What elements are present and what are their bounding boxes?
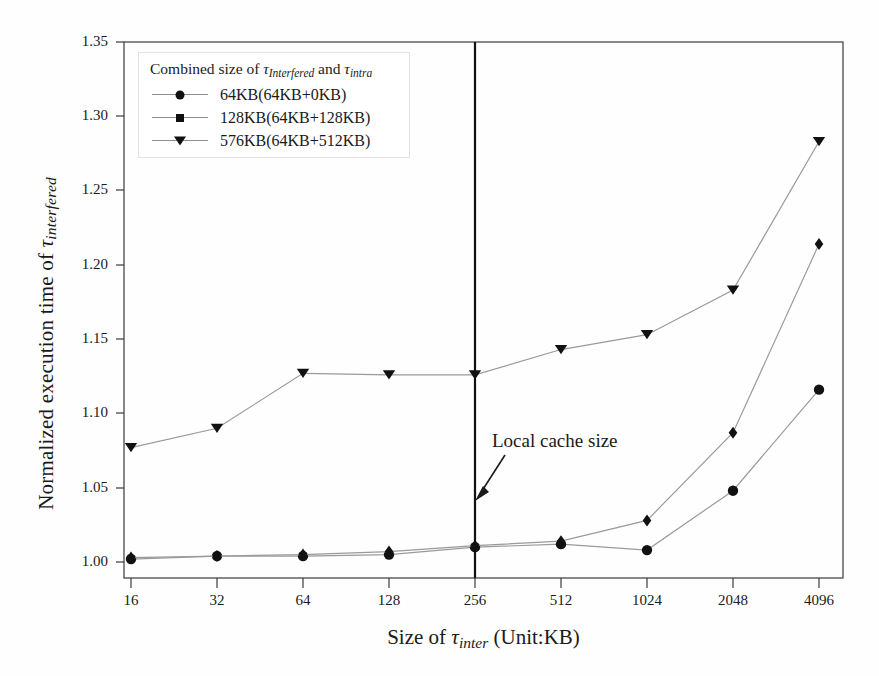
data-point-triangle	[813, 137, 825, 146]
legend-title: Combined size of τInterfered and τintra	[148, 60, 400, 79]
legend-title-conjunction: and	[314, 60, 344, 77]
x-axis-title-suffix: (Unit:KB)	[488, 625, 580, 649]
y-tick-label-1.35: 1.35	[60, 33, 108, 50]
data-point-triangle	[211, 424, 223, 433]
x-tick-label-128: 128	[359, 592, 419, 609]
data-point-diamond	[643, 514, 652, 526]
x-tick-label-1024: 1024	[617, 592, 677, 609]
line-chart-plot	[0, 0, 879, 676]
triangle-down-marker-icon	[148, 134, 212, 148]
data-point-triangle	[727, 286, 739, 295]
x-axis-title-subscript: inter	[459, 634, 488, 651]
data-point-circle	[642, 545, 652, 555]
legend-item-576kb-label: 576KB(64KB+512KB)	[220, 132, 370, 150]
legend-title-subscript-1: Interfered	[269, 67, 314, 79]
data-point-triangle	[641, 330, 653, 339]
y-tick-label-1.25: 1.25	[60, 181, 108, 198]
x-tick-label-16: 16	[101, 592, 161, 609]
y-axis-title-prefix: Normalized execution time of	[34, 247, 58, 509]
legend-title-prefix: Combined size of	[150, 60, 263, 77]
local-cache-size-annotation: Local cache size	[492, 430, 618, 452]
x-tick-label-64: 64	[273, 592, 333, 609]
legend-item-64kb-label: 64KB(64KB+0KB)	[220, 86, 346, 104]
y-tick-label-1.15: 1.15	[60, 330, 108, 347]
data-point-circle	[728, 485, 738, 495]
x-tick-label-4096: 4096	[789, 592, 849, 609]
legend-item-128kb-label: 128KB(64KB+128KB)	[220, 109, 370, 127]
x-axis-ticks	[131, 578, 819, 588]
x-tick-label-32: 32	[187, 592, 247, 609]
y-axis-title: Normalized execution time of τinterfered	[34, 83, 61, 603]
legend-title-subscript-2: intra	[350, 67, 372, 79]
data-point-triangle	[555, 345, 567, 354]
chart-figure: 1.35 1.30 1.25 1.20 1.15 1.10 1.05 1.00 …	[0, 0, 879, 676]
y-axis-title-tau: τ	[34, 240, 58, 248]
x-axis-title-tau: τ	[451, 625, 459, 649]
circle-marker-icon	[148, 88, 212, 102]
x-tick-label-2048: 2048	[703, 592, 763, 609]
x-tick-label-512: 512	[531, 592, 591, 609]
y-tick-label-1.10: 1.10	[60, 404, 108, 421]
legend-item-64kb[interactable]: 64KB(64KB+0KB)	[148, 84, 400, 107]
chart-legend: Combined size of τInterfered and τintra …	[138, 52, 410, 158]
legend-item-576kb[interactable]: 576KB(64KB+512KB)	[148, 130, 400, 153]
data-point-diamond	[815, 238, 824, 250]
diamond-marker-icon	[148, 111, 212, 125]
y-axis-ticks	[116, 42, 124, 562]
y-axis-title-subscript: interfered	[42, 177, 59, 240]
local-cache-size-arrow	[475, 455, 505, 501]
data-point-triangle	[125, 443, 137, 452]
data-point-circle	[814, 384, 824, 394]
y-tick-label-1.05: 1.05	[60, 479, 108, 496]
y-tick-label-1.00: 1.00	[60, 553, 108, 570]
x-axis-title-prefix: Size of	[387, 625, 451, 649]
legend-item-128kb[interactable]: 128KB(64KB+128KB)	[148, 107, 400, 130]
y-tick-label-1.20: 1.20	[60, 256, 108, 273]
y-tick-label-1.30: 1.30	[60, 107, 108, 124]
x-tick-label-256: 256	[445, 592, 505, 609]
data-point-diamond	[729, 427, 738, 439]
x-axis-title: Size of τinter (Unit:KB)	[124, 625, 843, 652]
